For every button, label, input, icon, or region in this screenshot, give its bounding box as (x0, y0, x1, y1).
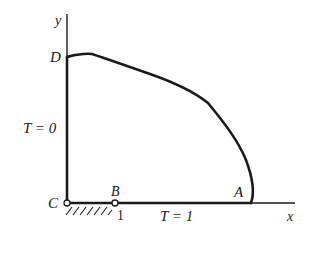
x-axis-label: x (287, 210, 293, 224)
point-d-label: D (50, 50, 61, 65)
hatching (66, 207, 112, 215)
left-boundary-label: T = 0 (23, 121, 56, 136)
point-c-marker (64, 200, 70, 206)
point-b-label: B (111, 185, 120, 199)
tick-1-label: 1 (117, 209, 124, 223)
point-b-marker (112, 200, 118, 206)
y-axis-label: y (55, 14, 61, 28)
left-boundary-text: T = 0 (23, 120, 56, 136)
diagram-canvas: y D T = 0 C B 1 T = 1 A x (0, 0, 318, 253)
point-c-label: C (48, 196, 58, 211)
bottom-boundary-label: T = 1 (160, 209, 193, 224)
free-boundary-curve (67, 54, 253, 203)
point-a-label: A (234, 185, 243, 200)
